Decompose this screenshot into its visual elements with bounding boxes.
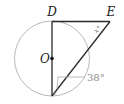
center-point-o (50, 57, 54, 61)
label-d: D (46, 5, 57, 19)
secant-segment-to-e (52, 22, 110, 97)
label-angle-x: x° (92, 23, 104, 35)
label-angle-38: 38° (87, 72, 105, 83)
label-angle-y: y (53, 89, 57, 96)
geometry-diagram: D E O x° y 38° (0, 0, 124, 104)
circle-geometry-figure: D E O x° y 38° (0, 0, 124, 104)
label-o: O (40, 52, 50, 66)
label-e: E (106, 5, 116, 19)
